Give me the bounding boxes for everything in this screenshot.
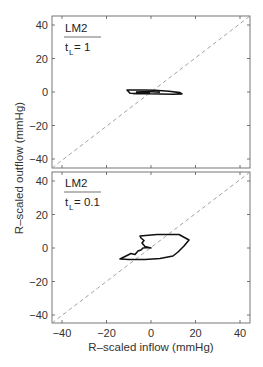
y-tick-label: −40 [29, 153, 48, 165]
x-tick-label: 20 [189, 327, 201, 339]
legend-value: = 1 [74, 41, 90, 53]
legend-value: = 0.1 [74, 196, 100, 208]
x-axis-label: R–scaled inflow (mmHg) [88, 341, 213, 353]
y-tick-label: −40 [29, 309, 48, 321]
y-tick-label: −20 [29, 276, 48, 288]
y-tick-label: 20 [36, 209, 48, 221]
legend-title: LM2 [65, 22, 87, 34]
bottom-x-tick-labels: −40 −20 0 20 40 [53, 327, 246, 339]
y-tick-label: 0 [42, 86, 48, 98]
bottom-y-tick-labels: 40 20 0 −20 −40 [29, 175, 48, 321]
x-tick-label: 40 [234, 327, 246, 339]
bottom-panel: 40 20 0 −20 −40 −40 −20 0 20 40 LM2 t L … [29, 172, 250, 339]
y-tick-label: −20 [29, 120, 48, 132]
y-tick-label: 40 [36, 175, 48, 187]
x-tick-label: −40 [53, 327, 72, 339]
figure-canvas: 40 20 0 −20 −40 LM2 t L = 1 40 [0, 0, 263, 367]
y-tick-label: 0 [42, 242, 48, 254]
legend-title: LM2 [65, 177, 87, 189]
x-tick-label: −20 [97, 327, 116, 339]
x-tick-label: 0 [148, 327, 154, 339]
y-tick-label: 40 [36, 19, 48, 31]
y-tick-label: 20 [36, 53, 48, 65]
y-axis-label: R–scaled outflow (mmHg) [13, 102, 25, 234]
top-y-tick-labels: 40 20 0 −20 −40 [29, 19, 48, 165]
top-panel: 40 20 0 −20 −40 LM2 t L = 1 [29, 16, 250, 168]
